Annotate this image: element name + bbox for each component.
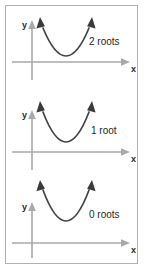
root-count-label: 1 root <box>91 125 117 136</box>
y-axis-label: y <box>22 202 27 212</box>
y-axis <box>28 20 36 80</box>
y-axis <box>28 110 36 170</box>
x-axis <box>12 58 130 66</box>
y-axis-label: y <box>22 20 27 30</box>
parabola-curve <box>36 180 95 221</box>
parabola-curve <box>36 17 95 56</box>
y-axis-label: y <box>22 110 27 120</box>
x-axis <box>12 148 130 156</box>
x-axis-label: x <box>131 64 136 74</box>
panel-one-root: y x 1 root <box>0 90 144 180</box>
x-axis-label: x <box>131 154 136 164</box>
root-count-label: 0 roots <box>89 209 120 220</box>
y-axis <box>28 202 36 258</box>
panel-zero-roots: y x 0 roots <box>0 180 144 270</box>
x-axis-label: x <box>131 245 136 255</box>
root-count-label: 2 roots <box>89 36 120 47</box>
parabola-curve <box>36 101 95 142</box>
panel-two-roots: y x 2 roots <box>0 0 144 90</box>
x-axis <box>12 239 130 247</box>
quadratic-roots-figure: y x 2 roots y x <box>0 0 144 270</box>
